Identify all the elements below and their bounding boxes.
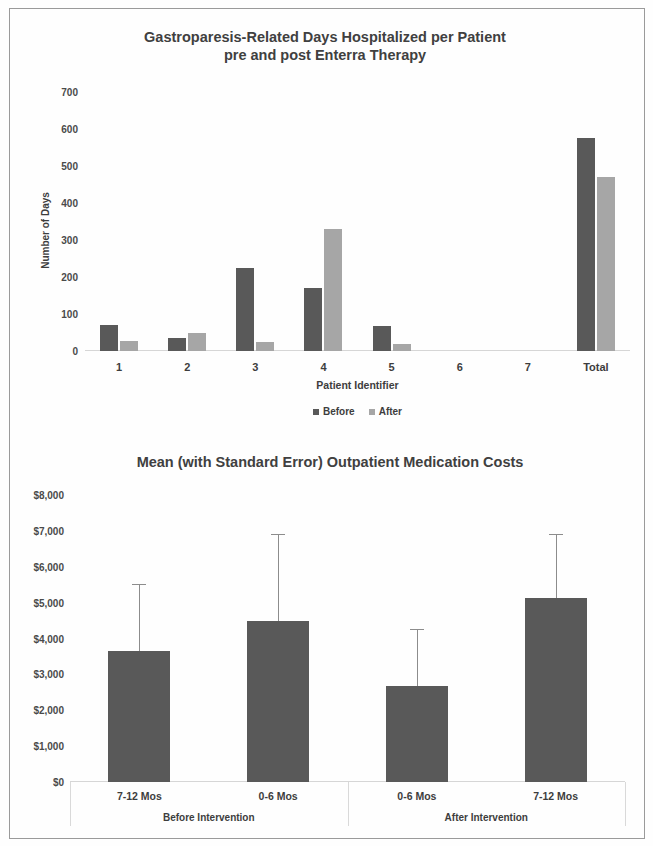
medication-costs-group-separator: [348, 782, 349, 826]
hospital-days-chart-title: Gastroparesis-Related Days Hospitalized …: [60, 28, 590, 64]
medication-costs-error-bar-cap: [549, 534, 563, 535]
medication-costs-group-separator: [625, 782, 626, 826]
hospital-days-y-tick-label: 400: [40, 198, 78, 209]
hospital-days-bar-after: [256, 342, 274, 351]
legend-swatch-after-icon: [369, 409, 375, 415]
medication-costs-y-tick-label: $3,000: [8, 669, 64, 680]
medication-costs-y-tick-label: $7,000: [8, 525, 64, 536]
medication-costs-error-bar: [417, 629, 418, 686]
medication-costs-bar: [386, 686, 448, 782]
hospital-days-bar-before: [100, 325, 118, 351]
hospital-days-bar-after: [597, 177, 615, 351]
hospital-days-y-tick-label: 0: [40, 346, 78, 357]
hospital-days-y-axis-title: Number of Days: [40, 176, 51, 286]
medication-costs-y-tick-label: $6,000: [8, 561, 64, 572]
hospital-days-legend: Before After: [85, 406, 630, 417]
hospital-days-bar-before: [373, 326, 391, 351]
medication-costs-group-separator: [70, 782, 71, 826]
hospital-days-bar-before: [168, 338, 186, 351]
hospital-days-x-axis-line: [85, 350, 630, 351]
medication-costs-bar: [108, 651, 170, 782]
hospital-days-chart: Gastroparesis-Related Days Hospitalized …: [0, 0, 653, 430]
medication-costs-plot-area: [70, 495, 625, 782]
medication-costs-x-tick-label: 7-12 Mos: [533, 790, 578, 802]
medication-costs-error-bar-cap: [271, 534, 285, 535]
hospital-days-x-tick-label: 1: [116, 361, 122, 373]
legend-item-before: Before: [313, 406, 355, 417]
medication-costs-y-tick-label: $0: [8, 777, 64, 788]
medication-costs-error-bar-cap: [132, 584, 146, 585]
medication-costs-group-label: Before Intervention: [163, 812, 255, 823]
legend-item-after: After: [369, 406, 402, 417]
medication-costs-y-tick-label: $5,000: [8, 597, 64, 608]
hospital-days-x-tick-label: 4: [320, 361, 326, 373]
medication-costs-error-bar: [556, 534, 557, 598]
hospital-days-x-tick-label: 2: [184, 361, 190, 373]
hospital-days-y-tick-label: 600: [40, 124, 78, 135]
hospital-days-y-tick-label: 500: [40, 161, 78, 172]
hospital-days-bar-after: [324, 229, 342, 351]
hospital-days-y-tick-label: 200: [40, 272, 78, 283]
hospital-days-y-tick-label: 100: [40, 309, 78, 320]
hospital-days-y-tick-label: 300: [40, 235, 78, 246]
medication-costs-x-tick-label: 0-6 Mos: [259, 790, 298, 802]
medication-costs-error-bar: [139, 584, 140, 651]
hospital-days-plot-area: [85, 92, 630, 351]
hospital-days-y-tick-label: 700: [40, 87, 78, 98]
figure-page: Gastroparesis-Related Days Hospitalized …: [0, 0, 653, 846]
legend-swatch-before-icon: [313, 409, 319, 415]
medication-costs-bar: [247, 621, 309, 782]
hospital-days-x-tick-label: 3: [252, 361, 258, 373]
medication-costs-y-tick-label: $8,000: [8, 490, 64, 501]
hospital-days-chart-title-line-1: Gastroparesis-Related Days Hospitalized …: [60, 28, 590, 46]
hospital-days-x-tick-label: 7: [525, 361, 531, 373]
medication-costs-y-tick-label: $1,000: [8, 741, 64, 752]
medication-costs-error-bar-cap: [410, 629, 424, 630]
hospital-days-bar-before: [304, 288, 322, 351]
hospital-days-bar-before: [577, 138, 595, 351]
medication-costs-group-label: After Intervention: [445, 812, 528, 823]
hospital-days-chart-title-line-2: pre and post Enterra Therapy: [60, 46, 590, 64]
hospital-days-bar-after: [188, 333, 206, 351]
hospital-days-bar-before: [236, 268, 254, 351]
hospital-days-x-tick-label: 5: [389, 361, 395, 373]
hospital-days-bar-after: [120, 341, 138, 351]
hospital-days-x-tick-label: Total: [583, 361, 608, 373]
medication-costs-y-tick-label: $2,000: [8, 705, 64, 716]
medication-costs-x-tick-label: 0-6 Mos: [397, 790, 436, 802]
legend-label-after: After: [379, 406, 402, 417]
medication-costs-chart: Mean (with Standard Error) Outpatient Me…: [0, 435, 653, 846]
hospital-days-bar-after: [393, 344, 411, 351]
hospital-days-x-axis-title: Patient Identifier: [85, 379, 630, 391]
medication-costs-y-tick-label: $4,000: [8, 633, 64, 644]
medication-costs-x-tick-label: 7-12 Mos: [117, 790, 162, 802]
legend-label-before: Before: [323, 406, 355, 417]
hospital-days-x-tick-label: 6: [457, 361, 463, 373]
medication-costs-bar: [525, 598, 587, 782]
medication-costs-error-bar: [278, 534, 279, 621]
medication-costs-chart-title: Mean (with Standard Error) Outpatient Me…: [45, 453, 615, 471]
